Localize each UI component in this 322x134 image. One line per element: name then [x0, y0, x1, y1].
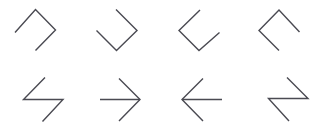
figure-background [0, 0, 322, 134]
shape-grid-figure [0, 0, 322, 134]
